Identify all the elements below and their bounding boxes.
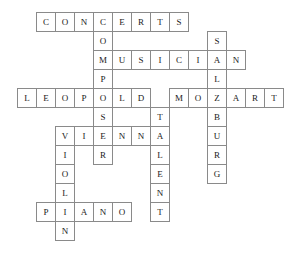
cell-letter: E xyxy=(119,17,125,26)
crossword-cell[interactable]: S xyxy=(93,107,113,127)
cell-letter: O xyxy=(100,36,107,45)
crossword-cell[interactable]: B xyxy=(207,107,227,127)
cell-letter: S xyxy=(176,17,181,26)
cell-letter: L xyxy=(62,188,68,197)
crossword-cell[interactable]: O xyxy=(188,88,208,108)
cell-letter: A xyxy=(214,55,221,64)
cell-letter: M xyxy=(99,55,107,64)
crossword-cell[interactable]: I xyxy=(55,202,75,222)
cell-letter: C xyxy=(176,55,182,64)
crossword-cell[interactable]: M xyxy=(169,88,189,108)
crossword-cell[interactable]: N xyxy=(55,221,75,241)
crossword-cell[interactable]: O xyxy=(93,31,113,51)
crossword-cell[interactable]: O xyxy=(55,164,75,184)
crossword-cell[interactable]: N xyxy=(93,202,113,222)
crossword-cell[interactable]: A xyxy=(226,88,246,108)
cell-letter: D xyxy=(138,93,145,102)
crossword-cell[interactable]: E xyxy=(112,12,132,32)
cell-letter: R xyxy=(100,150,106,159)
crossword-cell[interactable]: A xyxy=(74,202,94,222)
crossword-cell[interactable]: Z xyxy=(207,88,227,108)
cell-letter: P xyxy=(100,74,105,83)
crossword-cell[interactable]: A xyxy=(150,126,170,146)
crossword-cell[interactable]: V xyxy=(55,126,75,146)
cell-letter: N xyxy=(157,188,164,197)
crossword-cell[interactable]: L xyxy=(17,88,37,108)
crossword-cell[interactable]: D xyxy=(131,88,151,108)
crossword-cell[interactable]: L xyxy=(150,145,170,165)
crossword-cell[interactable]: L xyxy=(55,183,75,203)
cell-letter: L xyxy=(214,74,220,83)
crossword-cell[interactable]: P xyxy=(74,88,94,108)
cell-letter: I xyxy=(83,131,86,140)
cell-letter: A xyxy=(81,207,88,216)
crossword-cell[interactable]: P xyxy=(36,202,56,222)
crossword-cell[interactable]: T xyxy=(150,12,170,32)
crossword-cell[interactable]: T xyxy=(264,88,284,108)
crossword-cell[interactable]: G xyxy=(207,164,227,184)
crossword-cell[interactable]: R xyxy=(207,145,227,165)
crossword-cell[interactable]: T xyxy=(150,202,170,222)
crossword-cell[interactable]: I xyxy=(55,145,75,165)
crossword-cell[interactable]: N xyxy=(131,126,151,146)
crossword-cell[interactable]: O xyxy=(55,88,75,108)
cell-letter: L xyxy=(119,93,125,102)
crossword-cell[interactable]: O xyxy=(112,202,132,222)
crossword-cell[interactable]: I xyxy=(188,50,208,70)
cell-letter: Z xyxy=(214,93,220,102)
crossword-cell[interactable]: T xyxy=(150,107,170,127)
crossword-cell[interactable]: S xyxy=(169,12,189,32)
cell-letter: T xyxy=(157,17,163,26)
crossword-cell[interactable]: E xyxy=(150,164,170,184)
cell-letter: C xyxy=(100,17,106,26)
cell-letter: R xyxy=(214,150,220,159)
crossword-cell[interactable]: N xyxy=(150,183,170,203)
cell-letter: A xyxy=(157,131,164,140)
cell-letter: R xyxy=(252,93,258,102)
cell-letter: L xyxy=(157,150,163,159)
crossword-cell[interactable]: P xyxy=(93,69,113,89)
cell-letter: O xyxy=(100,93,107,102)
crossword-cell[interactable]: I xyxy=(74,126,94,146)
crossword-cell[interactable]: C xyxy=(36,12,56,32)
crossword-puzzle: CONCERTSOSMUSICIANPLLEOPOLDMOZARTSTBVIEN… xyxy=(0,0,300,256)
cell-letter: A xyxy=(233,93,240,102)
crossword-cell[interactable]: S xyxy=(131,50,151,70)
crossword-cell[interactable]: O xyxy=(93,88,113,108)
cell-letter: U xyxy=(119,55,126,64)
crossword-cell[interactable]: O xyxy=(55,12,75,32)
crossword-cell[interactable]: L xyxy=(207,69,227,89)
cell-letter: N xyxy=(81,17,88,26)
cell-letter: L xyxy=(24,93,30,102)
crossword-cell[interactable]: S xyxy=(207,31,227,51)
cell-letter: O xyxy=(62,17,69,26)
cell-letter: T xyxy=(157,112,163,121)
cell-letter: N xyxy=(138,131,145,140)
crossword-cell[interactable]: N xyxy=(226,50,246,70)
crossword-cell[interactable]: U xyxy=(207,126,227,146)
crossword-cell[interactable]: I xyxy=(150,50,170,70)
crossword-cell[interactable]: R xyxy=(245,88,265,108)
cell-letter: O xyxy=(195,93,202,102)
crossword-cell[interactable]: M xyxy=(93,50,113,70)
crossword-cell[interactable]: U xyxy=(112,50,132,70)
cell-letter: M xyxy=(175,93,183,102)
crossword-cell[interactable]: E xyxy=(93,126,113,146)
cell-letter: N xyxy=(233,55,240,64)
cell-letter: S xyxy=(214,36,219,45)
cell-letter: N xyxy=(62,226,69,235)
cell-letter: P xyxy=(43,207,48,216)
crossword-cell[interactable]: N xyxy=(74,12,94,32)
crossword-cell[interactable]: C xyxy=(93,12,113,32)
crossword-cell[interactable]: N xyxy=(112,126,132,146)
crossword-cell[interactable]: A xyxy=(207,50,227,70)
cell-letter: O xyxy=(62,169,69,178)
crossword-cell[interactable]: C xyxy=(169,50,189,70)
cell-letter: T xyxy=(271,93,277,102)
crossword-cell[interactable]: R xyxy=(93,145,113,165)
cell-letter: B xyxy=(214,112,220,121)
crossword-cell[interactable]: E xyxy=(36,88,56,108)
cell-letter: G xyxy=(214,169,221,178)
crossword-cell[interactable]: R xyxy=(131,12,151,32)
crossword-cell[interactable]: L xyxy=(112,88,132,108)
